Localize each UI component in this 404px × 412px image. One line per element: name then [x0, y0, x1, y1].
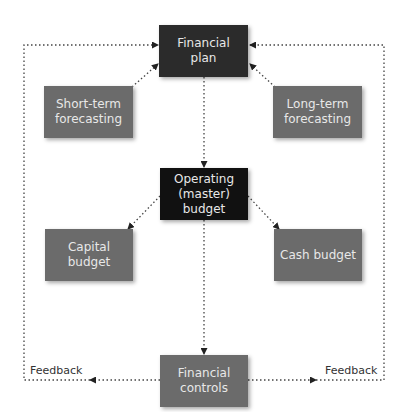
node-label: Financial plan	[163, 36, 244, 66]
node-operating-budget: Operating (master) budget	[160, 168, 248, 220]
node-label: Long-term forecasting	[277, 97, 358, 127]
feedback-label-left: Feedback	[30, 364, 82, 377]
node-cash-budget: Cash budget	[274, 229, 362, 281]
node-financial-plan: Financial plan	[159, 25, 248, 77]
node-label: Operating (master) budget	[164, 172, 244, 217]
node-financial-controls: Financial controls	[160, 355, 248, 407]
feedback-label-right: Feedback	[325, 364, 377, 377]
node-long-term-forecasting: Long-term forecasting	[273, 86, 362, 138]
node-label: Cash budget	[280, 248, 356, 263]
node-short-term-forecasting: Short-term forecasting	[44, 86, 133, 138]
node-label: Financial controls	[164, 366, 244, 396]
node-label: Capital budget	[49, 240, 129, 270]
node-capital-budget: Capital budget	[45, 229, 133, 281]
node-label: Short-term forecasting	[48, 97, 129, 127]
